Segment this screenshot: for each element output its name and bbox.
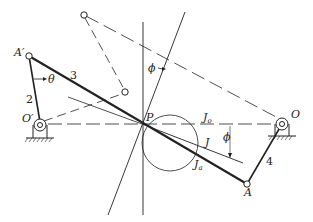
- label-a: A: [243, 186, 252, 199]
- ground-support-o: [268, 118, 296, 140]
- label-link-2: 2: [26, 93, 33, 106]
- joint-a-prime: [26, 53, 32, 59]
- label-o-prime: O′: [22, 112, 34, 125]
- joint-upper-alt: [81, 12, 87, 18]
- label-phi-right: ϕ: [223, 131, 231, 144]
- label-link-3: 3: [70, 69, 77, 82]
- linkage-diagram: A′ θ 3 2 O′ P ϕ Jo ϕ J Ja 4 A O: [0, 0, 313, 222]
- theta-arrowhead: [43, 77, 47, 81]
- dashed-link-crank: [44, 94, 122, 121]
- label-phi-top: ϕ: [148, 62, 156, 75]
- dashed-link-upper: [86, 16, 278, 118]
- joint-lower-alt: [122, 89, 128, 95]
- label-o: O: [291, 108, 300, 121]
- dashed-link-middle: [85, 18, 124, 89]
- label-j: J: [203, 136, 210, 149]
- label-a-prime: A′: [13, 46, 25, 59]
- label-p: P: [145, 111, 154, 124]
- link-3: [29, 56, 247, 184]
- label-j0: Jo: [201, 111, 212, 125]
- link-4: [247, 124, 282, 184]
- label-theta: θ: [48, 73, 55, 86]
- label-link-4: 4: [266, 155, 273, 168]
- label-ja: Ja: [192, 158, 203, 172]
